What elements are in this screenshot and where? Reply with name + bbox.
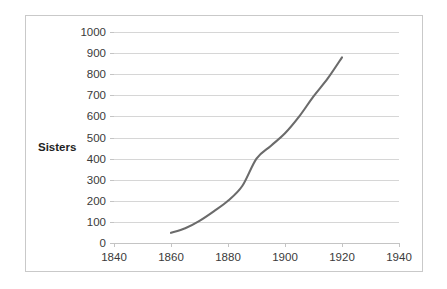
y-axis-tick-label-100: 100 [66,216,106,228]
y-axis-tick-label-0: 0 [66,237,106,249]
x-axis-tick-1940 [399,243,400,247]
y-axis-tick-label-800: 800 [66,68,106,80]
chart-frame: Sisters 01002003004005006007008009001000… [25,15,423,272]
x-axis-tick-1900 [285,243,286,247]
y-axis-tick-label-300: 300 [66,174,106,186]
x-axis-tick-1920 [342,243,343,247]
x-axis-tick-label-1920: 1920 [329,251,355,263]
x-axis-tick-label-1940: 1940 [386,251,412,263]
x-axis-tick-label-1880: 1880 [215,251,241,263]
y-axis-tick-label-600: 600 [66,110,106,122]
y-axis-tick-label-700: 700 [66,89,106,101]
series-line-chart [114,32,399,243]
series-line-sisters [171,57,342,233]
x-axis-tick-label-1860: 1860 [158,251,184,263]
x-axis-tick-label-1840: 1840 [101,251,127,263]
x-axis-tick-1880 [228,243,229,247]
y-axis-tick-label-200: 200 [66,195,106,207]
plot-area: 01002003004005006007008009001000 1840186… [114,32,399,243]
y-axis-tick-label-1000: 1000 [66,26,106,38]
y-axis-tick-label-400: 400 [66,153,106,165]
gridline-y-0 [114,243,399,244]
x-axis-tick-1860 [171,243,172,247]
x-axis-tick-1840 [114,243,115,247]
x-axis-tick-label-1900: 1900 [272,251,298,263]
y-axis-tick-label-900: 900 [66,47,106,59]
y-axis-tick-label-500: 500 [66,132,106,144]
